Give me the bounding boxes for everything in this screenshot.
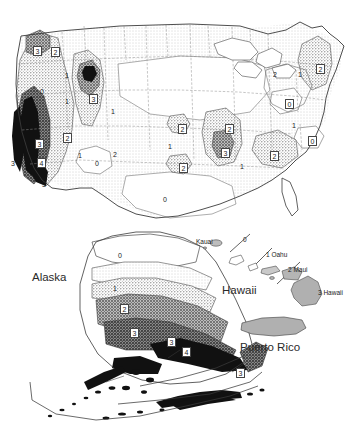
- hawaii-island-label-0: Kauai: [196, 239, 213, 246]
- hawaii-island-label-4: 3 Hawaii: [318, 290, 343, 297]
- hawaii-title: Hawaii: [222, 285, 257, 297]
- hazard-level-label-conus-5: 3: [89, 94, 98, 104]
- hazard-level-label-alaska-5: 4: [182, 347, 191, 357]
- hazard-level-label-alaska-3: 3: [130, 328, 139, 338]
- florida-outline: [282, 178, 298, 216]
- hazard-level-label-conus-12: 1: [78, 152, 82, 159]
- hazard-level-label-conus-15: 1: [168, 143, 172, 150]
- hawaii-island-label-3: 2 Maui: [288, 267, 308, 274]
- puerto-rico-island: [241, 317, 306, 336]
- hazard-level-label-conus-3: 1: [65, 72, 69, 79]
- hazard-level-label-conus-4: 1: [65, 98, 69, 105]
- hazard-level-label-conus-20: 1: [240, 163, 244, 170]
- hazard-level-label-conus-24: 2: [316, 64, 325, 74]
- hazard-level-label-alaska-6: 3: [236, 368, 245, 378]
- hazard-level-label-conus-2: 0: [40, 88, 44, 95]
- hazard-level-label-conus-27: 0: [308, 136, 317, 146]
- hawaii-island-label-2: 1 Oahu: [266, 252, 287, 259]
- hazard-level-label-alaska-0: 0: [118, 252, 122, 259]
- map-graphics: [0, 0, 361, 442]
- hazard-level-label-conus-17: 2: [179, 163, 188, 173]
- hazard-level-label-conus-28: 2: [270, 151, 279, 161]
- hazard-level-label-conus-6: 1: [111, 108, 115, 115]
- hazard-level-label-conus-18: 2: [225, 124, 234, 134]
- hazard-level-label-conus-16: 2: [178, 124, 187, 134]
- hazard-level-label-conus-13: 0: [95, 160, 99, 167]
- hazard-level-label-conus-11: 3: [42, 181, 46, 188]
- hazard-level-label-conus-8: 3: [35, 139, 44, 149]
- alaska-title: Alaska: [32, 272, 67, 284]
- aleutian-islands: [48, 366, 265, 420]
- conus-panel: [12, 22, 344, 218]
- hazard-level-label-alaska-4: 3: [167, 337, 176, 347]
- hazard-level-label-conus-22: 2: [273, 71, 277, 78]
- hazard-level-label-conus-1: 2: [51, 47, 60, 57]
- hazard-level-label-conus-25: 0: [285, 99, 294, 109]
- hazard-level-label-alaska-2: 2: [120, 304, 129, 314]
- hazard-level-label-conus-26: 1: [292, 122, 296, 129]
- hawaii-island-label-1: 0: [243, 237, 247, 244]
- hazard-level-label-conus-7: 2: [63, 133, 72, 143]
- hazard-level-label-conus-10: 3: [11, 160, 15, 167]
- hazard-level-label-conus-23: 1: [298, 71, 302, 78]
- hazard-level-label-conus-19: 3: [221, 148, 230, 158]
- hazard-level-label-conus-21: 0: [163, 196, 167, 203]
- hazard-level-label-conus-9: 4: [37, 158, 46, 168]
- hazard-level-label-alaska-1: 1: [113, 285, 117, 292]
- hazard-level-label-conus-14: 2: [113, 151, 117, 158]
- seismic-hazard-map: 32011312343310212223102120102 0123343 Al…: [0, 0, 361, 442]
- puerto-rico-panel: [241, 317, 306, 336]
- hazard-level-label-conus-0: 3: [33, 46, 42, 56]
- puerto-rico-title: Puerto Rico: [240, 342, 300, 354]
